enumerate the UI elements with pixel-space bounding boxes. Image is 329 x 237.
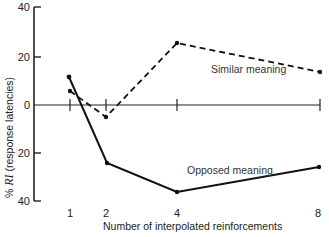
chart: 40 20 0 20 40 1 2 4 8 Number of interpol… (0, 0, 329, 237)
x-tick-label: 4 (174, 207, 180, 219)
data-point (318, 70, 322, 74)
y-tick-label: 40 (18, 1, 30, 13)
data-point (104, 115, 108, 119)
data-point (105, 161, 109, 165)
data-point (317, 165, 321, 169)
y-axis-title: % RI (response latencies) (2, 77, 16, 198)
x-axis-title: Number of interpolated reinforcements (103, 220, 282, 232)
data-point (175, 41, 179, 45)
label-similar-meaning: Similar meaning (211, 63, 286, 75)
data-point (175, 190, 179, 194)
y-tick-label: 0 (24, 99, 30, 111)
label-opposed-meaning: Opposed meaning (187, 164, 273, 176)
y-tick-label: 40 (18, 195, 30, 207)
data-point (67, 75, 72, 80)
data-point (68, 89, 72, 93)
y-tick-label: 20 (18, 51, 30, 63)
x-tick-label: 2 (103, 207, 109, 219)
y-tick-label: 20 (18, 147, 30, 159)
x-tick-label: 1 (67, 207, 73, 219)
series-similar-meaning (70, 43, 320, 117)
x-tick-label: 8 (315, 207, 321, 219)
